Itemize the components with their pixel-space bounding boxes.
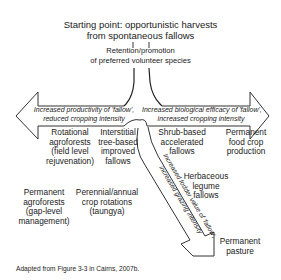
node-line: pasture xyxy=(214,247,266,257)
retention-line-2: of preferred volunteer species xyxy=(0,57,281,66)
stem-left-curve xyxy=(124,68,134,106)
node-line: fallows xyxy=(92,157,144,167)
node-line: production xyxy=(218,147,274,157)
node-permanent-agroforests: Permanent agroforests (gap-level managem… xyxy=(14,188,74,226)
node-line: management) xyxy=(14,217,74,227)
node-permanent-pasture: Permanent pasture xyxy=(214,237,266,256)
node-interstitial-fallows: Interstitial tree-based improved fallows xyxy=(92,128,144,166)
retention-line-1: Retention/promotion xyxy=(0,47,281,56)
stem-right-curve xyxy=(149,68,162,106)
node-permanent-food-crop: Permanent food crop production xyxy=(218,128,274,157)
node-line: rejuvenation) xyxy=(40,157,100,167)
node-line: fallows xyxy=(150,147,214,157)
right-arrow-label-2: increased cropping intensity xyxy=(142,115,260,123)
diagram-root: Starting point: opportunistic harvests f… xyxy=(0,0,281,280)
left-arrow-label-1: Increased productivity of 'fallow', xyxy=(28,106,140,114)
node-line: fallows xyxy=(178,191,234,201)
node-line: (taungya) xyxy=(74,207,140,217)
node-rotational-agroforests: Rotational agroforests (field level reju… xyxy=(40,128,100,166)
node-shrub-fallows: Shrub-based accelerated fallows xyxy=(150,128,214,157)
node-perennial-rotations: Perennial/annual crop rotations (taungya… xyxy=(74,188,140,217)
title-line-2: from spontaneous fallows xyxy=(0,31,281,42)
caption: Adapted from Figure 3-3 in Cairns, 2007b… xyxy=(16,265,139,273)
right-arrow-label-1: Increased biological efficacy of 'fallow… xyxy=(142,106,260,114)
left-arrow-label-2: reduced cropping intensity xyxy=(28,115,140,123)
node-herbaceous-legume: Herbaceous legume fallows xyxy=(178,172,234,201)
